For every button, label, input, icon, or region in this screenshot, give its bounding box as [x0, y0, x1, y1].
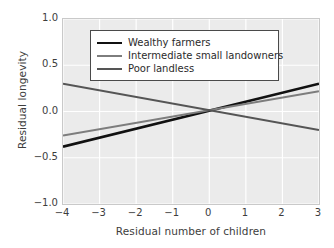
series-line-1	[63, 91, 319, 135]
y-tick-label: 0.5	[4, 59, 58, 69]
x-tick-label: 0	[193, 208, 223, 218]
legend-line-icon	[97, 50, 122, 61]
legend-item[interactable]: Wealthy farmers	[97, 36, 271, 49]
y-tick-label: 0.0	[4, 106, 58, 116]
legend-label: Poor landless	[128, 62, 194, 75]
legend-line-icon	[97, 63, 122, 74]
series-line-0	[63, 84, 319, 147]
legend-item[interactable]: Poor landless	[97, 62, 271, 75]
legend-label: Intermediate small landowners	[128, 49, 283, 62]
y-tick-label: 1.0	[4, 13, 58, 23]
x-axis-label: Residual number of children	[62, 225, 320, 237]
x-tick-label: 3	[303, 208, 333, 218]
x-tick-label: 2	[266, 208, 296, 218]
legend-label: Wealthy farmers	[128, 36, 211, 49]
series-lines	[63, 84, 319, 147]
chart-legend: Wealthy farmersIntermediate small landow…	[90, 30, 279, 81]
y-axis-label: Residual longevity	[14, 0, 30, 200]
x-tick-label: 1	[230, 208, 260, 218]
legend-item[interactable]: Intermediate small landowners	[97, 49, 271, 62]
x-tick-label: −2	[120, 208, 150, 218]
x-tick-label: −3	[84, 208, 114, 218]
chart-figure: 1.00.50.0−0.5−1.0 Residual longevity −4−…	[0, 0, 334, 248]
y-tick-label: −0.5	[4, 152, 58, 162]
x-tick-label: −4	[47, 208, 77, 218]
series-line-2	[63, 84, 319, 130]
legend-line-icon	[97, 37, 122, 48]
y-tick-label: −1.0	[4, 198, 58, 208]
x-tick-label: −1	[157, 208, 187, 218]
